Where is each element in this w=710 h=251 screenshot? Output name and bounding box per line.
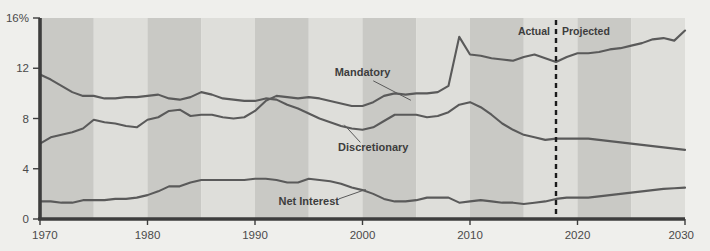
series-label-mandatory: Mandatory [335,66,392,78]
y-tick-label: 12 [16,62,29,74]
x-tick-label: 2000 [350,229,376,241]
x-tick-label: 1970 [32,229,58,241]
y-tick-label: 0 [23,213,29,225]
year-band [94,18,148,219]
series-label-net-interest: Net Interest [278,195,339,207]
x-tick-label: 1980 [135,229,161,241]
year-band [416,18,470,219]
projected-label: Projected [562,25,610,37]
y-tick-label: 8 [23,113,29,125]
y-tick-label: 16% [6,12,29,24]
x-tick-label: 2010 [457,229,483,241]
x-tick-label: 1990 [242,229,268,241]
spending-line-chart: 0481216% 1970198019902000201020202030 Ma… [0,0,710,251]
year-band [40,18,94,219]
y-tick-label: 4 [23,163,30,175]
alternating-year-bands [40,18,685,219]
year-band [255,18,309,219]
annotation-labels: ActualProjected [518,25,610,37]
series-label-discretionary: Discretionary [338,141,409,153]
y-tick-labels: 0481216% [6,12,30,225]
chart-figure: 0481216% 1970198019902000201020202030 Ma… [0,0,710,251]
year-band [524,18,578,219]
x-tick-label: 2030 [668,229,694,241]
x-tick-label: 2020 [565,229,591,241]
x-tick-labels: 1970198019902000201020202030 [32,229,694,241]
actual-label: Actual [518,25,550,37]
